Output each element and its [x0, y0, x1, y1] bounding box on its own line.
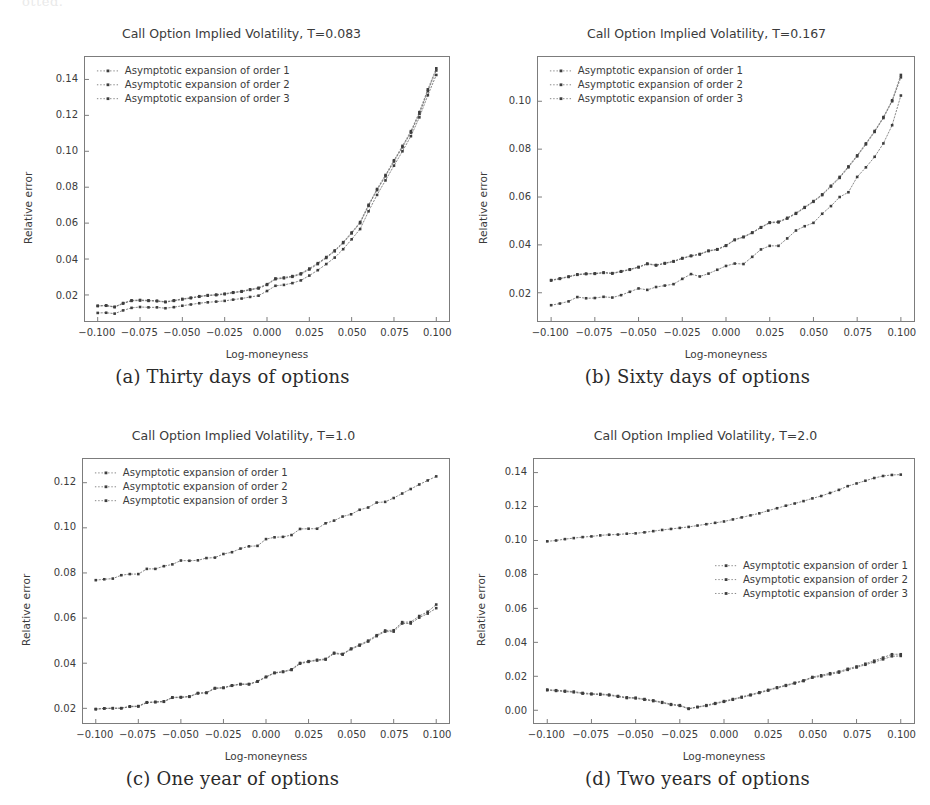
- x-tick-label: 0.025: [286, 327, 334, 338]
- x-tick-label: 0.050: [328, 327, 376, 338]
- chart-d-title: Call Option Implied Volatility, T=2.0: [465, 428, 930, 443]
- caption-c: (c) One year of options: [0, 768, 465, 789]
- y-tick-label: 0.14: [489, 466, 527, 477]
- chart-legend: Asymptotic expansion of order 1Asymptoti…: [545, 63, 743, 114]
- caption-b: (b) Sixty days of options: [465, 366, 930, 387]
- y-tick-label: 0.04: [489, 637, 527, 648]
- y-tick-label: 0.10: [489, 534, 527, 545]
- chart-c-plot-area: Asymptotic expansion of order 1Asymptoti…: [82, 458, 450, 724]
- y-tick-label: 0.06: [40, 217, 78, 228]
- x-tick-label: 0.075: [371, 327, 419, 338]
- chart-b-title: Call Option Implied Volatility, T=0.167: [465, 26, 930, 41]
- chart-a-xlabel: Log-moneyness: [84, 348, 450, 360]
- chart-b: Call Option Implied Volatility, T=0.167 …: [465, 14, 930, 332]
- x-tick-label: 0.050: [789, 729, 837, 740]
- legend-label: Asymptotic expansion of order 2: [578, 79, 743, 90]
- legend-label: Asymptotic expansion of order 3: [743, 588, 908, 599]
- legend-label: Asymptotic expansion of order 1: [743, 560, 908, 571]
- y-tick-label: 0.10: [38, 521, 76, 532]
- legend-label: Asymptotic expansion of order 1: [125, 65, 290, 76]
- y-tick-label: 0.04: [493, 239, 531, 250]
- legend-label: Asymptotic expansion of order 1: [123, 467, 288, 478]
- x-tick-label: −0.025: [200, 327, 248, 338]
- x-tick-label: −0.075: [570, 327, 618, 338]
- chart-a-title: Call Option Implied Volatility, T=0.083: [0, 26, 465, 41]
- x-tick-label: −0.100: [526, 327, 574, 338]
- x-tick-label: −0.025: [658, 327, 706, 338]
- chart-legend: Asymptotic expansion of order 1Asymptoti…: [92, 63, 290, 114]
- legend-label: Asymptotic expansion of order 2: [123, 481, 288, 492]
- x-tick-label: 0.100: [878, 327, 926, 338]
- chart-c: Call Option Implied Volatility, T=1.0 Re…: [0, 416, 465, 734]
- chart-b-svg: Asymptotic expansion of order 1Asymptoti…: [538, 57, 914, 321]
- legend-label: Asymptotic expansion of order 2: [743, 574, 908, 585]
- subfigure-b: Call Option Implied Volatility, T=0.167 …: [465, 14, 930, 332]
- legend-label: Asymptotic expansion of order 2: [125, 79, 290, 90]
- x-tick-label: 0.075: [834, 327, 882, 338]
- x-tick-label: 0.050: [328, 729, 376, 740]
- legend-label: Asymptotic expansion of order 3: [125, 93, 290, 104]
- x-tick-label: 0.025: [746, 327, 794, 338]
- x-tick-label: −0.050: [158, 327, 206, 338]
- x-tick-label: −0.100: [73, 327, 121, 338]
- legend-label: Asymptotic expansion of order 1: [578, 65, 743, 76]
- x-tick-label: 0.100: [413, 327, 461, 338]
- caption-a: (a) Thirty days of options: [0, 366, 465, 387]
- chart-legend: Asymptotic expansion of order 1Asymptoti…: [90, 465, 288, 516]
- y-tick-label: 0.06: [489, 603, 527, 614]
- chart-d-xlabel: Log-moneyness: [533, 750, 915, 762]
- x-tick-label: −0.050: [611, 729, 659, 740]
- chart-c-title: Call Option Implied Volatility, T=1.0: [0, 428, 465, 443]
- x-tick-label: 0.025: [285, 729, 333, 740]
- y-tick-label: 0.06: [493, 191, 531, 202]
- y-tick-label: 0.08: [489, 568, 527, 579]
- y-tick-label: 0.12: [489, 500, 527, 511]
- chart-d-svg: Asymptotic expansion of order 1Asymptoti…: [534, 459, 914, 723]
- x-tick-label: 0.025: [744, 729, 792, 740]
- x-tick-label: 0.000: [702, 327, 750, 338]
- y-tick-label: 0.02: [38, 703, 76, 714]
- chart-d: Call Option Implied Volatility, T=2.0 Re…: [465, 416, 930, 734]
- caption-d: (d) Two years of options: [465, 768, 930, 789]
- legend-label: Asymptotic expansion of order 3: [123, 495, 288, 506]
- y-tick-label: 0.10: [493, 95, 531, 106]
- x-tick-label: 0.100: [413, 729, 461, 740]
- chart-a-plot-area: Asymptotic expansion of order 1Asymptoti…: [84, 56, 450, 322]
- y-tick-label: 0.06: [38, 612, 76, 623]
- chart-a: Call Option Implied Volatility, T=0.083 …: [0, 14, 465, 332]
- chart-c-svg: Asymptotic expansion of order 1Asymptoti…: [83, 459, 449, 723]
- chart-b-xlabel: Log-moneyness: [537, 348, 915, 360]
- y-tick-label: 0.10: [40, 145, 78, 156]
- figure-grid: Call Option Implied Volatility, T=0.083 …: [0, 0, 930, 805]
- y-tick-label: 0.02: [40, 290, 78, 301]
- x-tick-label: −0.075: [114, 729, 162, 740]
- x-tick-label: 0.100: [878, 729, 926, 740]
- x-tick-label: −0.100: [522, 729, 570, 740]
- x-tick-label: −0.050: [614, 327, 662, 338]
- y-tick-label: 0.00: [489, 705, 527, 716]
- x-tick-label: 0.075: [833, 729, 881, 740]
- subfigure-a: Call Option Implied Volatility, T=0.083 …: [0, 14, 465, 332]
- x-tick-label: −0.075: [115, 327, 163, 338]
- chart-d-plot-area: Asymptotic expansion of order 1Asymptoti…: [533, 458, 915, 724]
- x-tick-label: 0.000: [242, 729, 290, 740]
- y-tick-label: 0.02: [489, 671, 527, 682]
- y-tick-label: 0.12: [40, 109, 78, 120]
- subfigure-c: Call Option Implied Volatility, T=1.0 Re…: [0, 416, 465, 734]
- chart-legend: Asymptotic expansion of order 1Asymptoti…: [710, 558, 908, 609]
- x-tick-label: 0.075: [370, 729, 418, 740]
- x-tick-label: −0.075: [567, 729, 615, 740]
- x-tick-label: −0.025: [656, 729, 704, 740]
- x-tick-label: 0.000: [243, 327, 291, 338]
- chart-b-plot-area: Asymptotic expansion of order 1Asymptoti…: [537, 56, 915, 322]
- subfigure-d: Call Option Implied Volatility, T=2.0 Re…: [465, 416, 930, 734]
- x-tick-label: −0.100: [71, 729, 119, 740]
- legend-label: Asymptotic expansion of order 3: [578, 93, 743, 104]
- y-tick-label: 0.12: [38, 476, 76, 487]
- chart-c-ylabel: Relative error: [20, 573, 32, 646]
- x-tick-label: −0.025: [199, 729, 247, 740]
- y-tick-label: 0.08: [40, 181, 78, 192]
- x-tick-label: 0.050: [790, 327, 838, 338]
- chart-a-svg: Asymptotic expansion of order 1Asymptoti…: [85, 57, 449, 321]
- y-tick-label: 0.08: [38, 567, 76, 578]
